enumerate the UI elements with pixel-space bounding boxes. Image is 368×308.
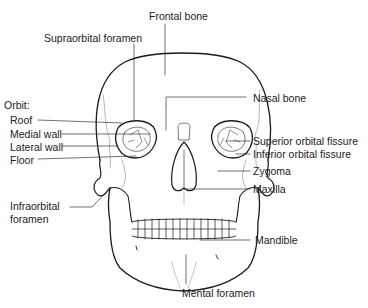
label-infraorbital-foramen-line2: foramen [10, 213, 49, 225]
skull-diagram: Frontal bone Supraorbital foramen Orbit:… [0, 0, 368, 308]
label-superior-orbital-fissure: Superior orbital fissure [253, 135, 358, 147]
mandible-inner-lines [172, 262, 196, 288]
teeth [132, 219, 236, 239]
label-frontal-bone: Frontal bone [149, 10, 208, 22]
right-maxilla-suture [243, 160, 246, 188]
label-orbit-floor: Floor [10, 154, 34, 166]
label-infraorbital-foramen-line1: Infraorbital [10, 200, 60, 212]
mental-foramen-mark-left [136, 246, 137, 250]
left-maxilla [110, 187, 132, 222]
mental-foramen-mark [216, 255, 218, 259]
left-maxilla-suture [122, 160, 125, 188]
right-orbit-fissures [220, 130, 240, 148]
label-zygoma: Zygoma [253, 165, 291, 177]
nasal-bone-shape [178, 123, 190, 140]
label-orbit-roof: Roof [10, 114, 32, 126]
label-mental-foramen: Mental foramen [182, 287, 255, 299]
left-orbit-fissures [128, 130, 148, 148]
label-inferior-orbital-fissure: Inferior orbital fissure [253, 148, 351, 160]
label-orbit-medial-wall: Medial wall [10, 128, 62, 140]
label-nasal-bone: Nasal bone [253, 92, 306, 104]
label-orbit-lateral-wall: Lateral wall [10, 141, 63, 153]
label-supraorbital-foramen: Supraorbital foramen [44, 32, 142, 44]
leader-lines [38, 24, 250, 284]
label-mandible: Mandible [255, 234, 298, 246]
label-orbit-heading: Orbit: [4, 99, 30, 111]
label-maxilla: Maxilla [253, 183, 286, 195]
